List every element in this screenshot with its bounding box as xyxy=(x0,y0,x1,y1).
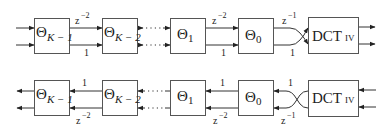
svg-text:z: z xyxy=(76,115,81,126)
crossover-path-b xyxy=(274,28,308,45)
svg-text:IV: IV xyxy=(345,95,355,105)
crossover-path-b xyxy=(274,91,308,108)
svg-text:−2: −2 xyxy=(218,11,227,20)
bottom-row: Θ K − 1 1 z −2 Θ K − 2 Θ 1 xyxy=(17,77,376,126)
delay-label-z-2: z −2 xyxy=(212,11,227,26)
svg-text:z: z xyxy=(75,15,80,26)
svg-text:DCT: DCT xyxy=(312,28,342,44)
gain-label-1: 1 xyxy=(220,77,225,88)
delay-label-z-2: z −2 xyxy=(76,111,91,126)
gain-label-1: 1 xyxy=(82,77,87,88)
svg-text:0: 0 xyxy=(256,33,262,45)
svg-text:Θ: Θ xyxy=(36,86,47,102)
block-theta-k-1: Θ K − 1 xyxy=(35,19,73,54)
svg-text:K − 1: K − 1 xyxy=(46,31,73,43)
block-dct-iv: DCT IV xyxy=(309,81,359,117)
delay-label-z-1: z −1 xyxy=(282,11,297,26)
block-theta-0: Θ 0 xyxy=(239,81,274,116)
top-row: Θ K − 1 z −2 1 Θ K − 2 Θ 1 xyxy=(16,11,375,58)
svg-text:−1: −1 xyxy=(288,11,297,20)
gain-label-1: 1 xyxy=(84,47,89,58)
svg-text:Θ: Θ xyxy=(245,89,256,105)
svg-text:Θ: Θ xyxy=(177,26,188,42)
svg-text:−2: −2 xyxy=(81,11,90,20)
crossover-path-a xyxy=(274,91,308,108)
delay-label-z-2: z −2 xyxy=(213,111,228,126)
block-dct-iv: DCT IV xyxy=(309,18,359,54)
svg-text:−2: −2 xyxy=(219,111,228,120)
gain-label-1: 1 xyxy=(288,77,293,88)
svg-text:z: z xyxy=(281,115,286,126)
svg-text:IV: IV xyxy=(345,33,355,43)
gain-label-1: 1 xyxy=(221,47,226,58)
svg-text:Θ: Θ xyxy=(245,27,256,43)
svg-text:1: 1 xyxy=(188,32,194,44)
svg-text:Θ: Θ xyxy=(36,24,47,40)
block-theta-1: Θ 1 xyxy=(171,19,206,54)
svg-text:−1: −1 xyxy=(287,111,296,120)
delay-label-z-1: z −1 xyxy=(281,111,296,126)
svg-text:1: 1 xyxy=(188,94,194,106)
svg-text:z: z xyxy=(212,15,217,26)
lattice-diagram: Θ K − 1 z −2 1 Θ K − 2 Θ 1 xyxy=(0,0,392,129)
block-theta-0: Θ 0 xyxy=(239,19,274,54)
block-theta-k-1: Θ K − 1 xyxy=(35,81,73,116)
svg-text:0: 0 xyxy=(256,95,262,107)
delay-label-z-2: z −2 xyxy=(75,11,90,26)
svg-text:K − 1: K − 1 xyxy=(46,93,73,105)
block-theta-k-2: Θ K − 2 xyxy=(103,19,142,54)
gain-label-1: 1 xyxy=(290,47,295,58)
svg-text:Θ: Θ xyxy=(104,86,115,102)
block-theta-1: Θ 1 xyxy=(171,81,206,116)
block-theta-k-2: Θ K − 2 xyxy=(103,81,142,116)
svg-text:K − 2: K − 2 xyxy=(114,31,141,43)
svg-text:DCT: DCT xyxy=(312,90,342,106)
svg-text:Θ: Θ xyxy=(104,24,115,40)
svg-text:K − 2: K − 2 xyxy=(114,93,141,105)
svg-text:z: z xyxy=(282,15,287,26)
svg-text:Θ: Θ xyxy=(177,88,188,104)
svg-text:−2: −2 xyxy=(82,111,91,120)
svg-text:z: z xyxy=(213,115,218,126)
